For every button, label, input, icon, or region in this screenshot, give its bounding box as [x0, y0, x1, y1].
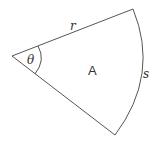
label-theta: θ [27, 53, 35, 67]
sector-diagram: r θ A s [0, 0, 160, 144]
label-area: A [88, 63, 97, 78]
label-s: s [143, 67, 149, 81]
arc-s [115, 9, 143, 135]
radius-bottom-line [12, 56, 115, 135]
angle-arc [35, 46, 41, 74]
